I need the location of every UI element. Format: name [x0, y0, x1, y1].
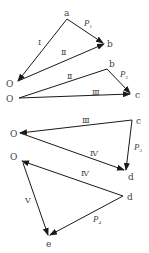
point-O-label: O	[6, 94, 13, 104]
point-c-label: c	[136, 116, 141, 126]
edge-IV-label: Ⅳ	[90, 149, 99, 158]
force-P1-label: P1	[83, 18, 93, 29]
force-P2-label: P2	[119, 69, 129, 80]
point-e-label: e	[46, 239, 51, 249]
force-P4-label: P4	[92, 214, 102, 225]
point-d-label: d	[128, 172, 134, 182]
edge-P3-arrow	[126, 120, 132, 170]
edge-II-label: Ⅱ	[67, 72, 72, 81]
edge-V-label: Ⅴ	[24, 196, 31, 205]
edge-IV-arrow	[20, 133, 124, 170]
point-b-label: b	[107, 39, 113, 49]
triangle-3: c d O Ⅲ Ⅳ P3	[10, 116, 143, 182]
edge-I-label: Ⅰ	[38, 38, 41, 47]
edge-II-label: Ⅱ	[61, 48, 66, 57]
point-O-label: O	[6, 79, 13, 89]
point-d-label: d	[127, 192, 133, 202]
point-a-label: a	[64, 8, 70, 18]
edge-III-label: Ⅲ	[82, 116, 90, 125]
edge-IV-label: Ⅳ	[81, 169, 90, 178]
point-O-label: O	[10, 152, 17, 162]
edge-P4-arrow	[50, 196, 123, 235]
edge-III-arrow	[19, 94, 130, 98]
triangle-2: b c O Ⅱ Ⅲ P2	[6, 59, 140, 104]
triangle-1: a b O Ⅰ Ⅱ P1	[6, 8, 113, 89]
point-O-label: O	[10, 129, 17, 139]
force-P3-label: P3	[133, 142, 143, 153]
point-b-label: b	[109, 59, 115, 69]
edge-III-arrow	[20, 120, 132, 133]
edge-IV-arrow	[22, 161, 123, 196]
point-c-label: c	[135, 90, 140, 100]
edge-I-arrow	[18, 19, 67, 81]
edge-III-label: Ⅲ	[92, 88, 100, 97]
force-polygon-diagram: a b O Ⅰ Ⅱ P1 b c O Ⅱ Ⅲ P2 c d O Ⅲ Ⅳ P3 d…	[0, 0, 149, 253]
edge-P2-arrow	[107, 69, 130, 93]
